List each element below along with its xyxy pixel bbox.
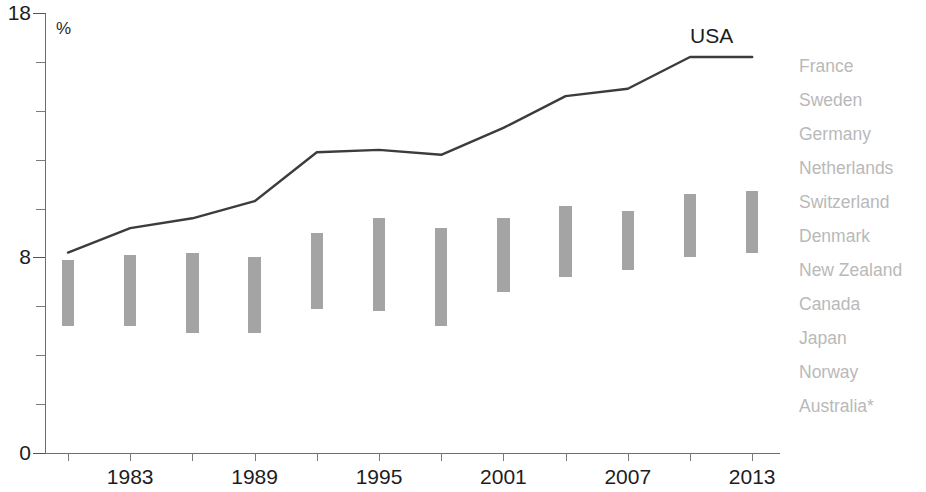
legend-entry-new-zealand: New Zealand bbox=[799, 262, 926, 296]
legend-entry-switzerland: Switzerland bbox=[799, 194, 926, 228]
legend-entry-sweden: Sweden bbox=[799, 92, 926, 126]
usa-series-label: USA bbox=[690, 25, 733, 46]
legend-entry-denmark: Denmark bbox=[799, 228, 926, 262]
legend-entry-france: France bbox=[799, 58, 926, 92]
chart-figure: 0818 198319891995200120072013 % USA Fran… bbox=[0, 0, 926, 492]
usa-line-chart bbox=[0, 0, 926, 492]
legend-entry-netherlands: Netherlands bbox=[799, 160, 926, 194]
legend-entry-japan: Japan bbox=[799, 330, 926, 364]
usa-line-path bbox=[68, 57, 752, 253]
legend-entry-australia: Australia* bbox=[799, 398, 926, 432]
legend-entry-germany: Germany bbox=[799, 126, 926, 160]
legend-entry-norway: Norway bbox=[799, 364, 926, 398]
legend-entry-canada: Canada bbox=[799, 296, 926, 330]
country-legend: FranceSwedenGermanyNetherlandsSwitzerlan… bbox=[799, 58, 926, 432]
